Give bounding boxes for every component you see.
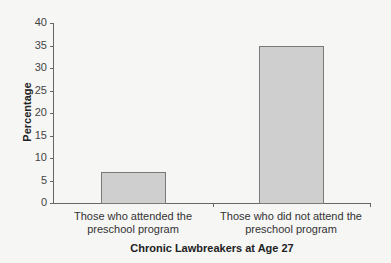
y-axis-title: Percentage: [21, 77, 33, 147]
y-tick: [50, 113, 54, 114]
y-tick-label: 30: [27, 61, 47, 73]
y-tick: [50, 158, 54, 159]
x-tick: [213, 203, 214, 207]
y-tick-label: 10: [27, 151, 47, 163]
y-tick: [50, 203, 54, 204]
y-tick: [50, 91, 54, 92]
y-tick-label: 0: [27, 196, 47, 208]
y-tick: [50, 136, 54, 137]
y-tick-label: 40: [27, 16, 47, 28]
y-tick: [50, 68, 54, 69]
y-tick-label: 35: [27, 39, 47, 51]
y-tick: [50, 46, 54, 47]
x-tick: [370, 203, 371, 207]
category-label: Those who attended thepreschool program: [53, 210, 213, 236]
y-tick: [50, 181, 54, 182]
bar: [101, 172, 166, 205]
category-label: Those who did not attend thepreschool pr…: [211, 210, 371, 236]
bar: [259, 46, 324, 205]
y-tick: [50, 23, 54, 24]
x-axis-title: Chronic Lawbreakers at Age 27: [53, 242, 371, 254]
y-tick-label: 5: [27, 174, 47, 186]
